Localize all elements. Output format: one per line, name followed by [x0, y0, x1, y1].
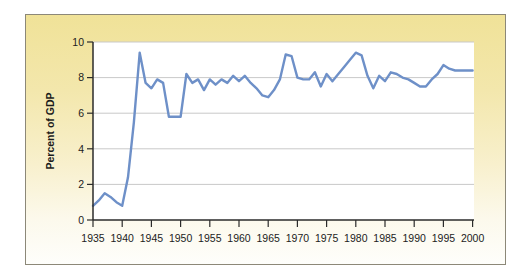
- x-tick-label-2000: 2000: [461, 232, 485, 244]
- y-tick-label-0: 0: [78, 214, 84, 226]
- x-tick-label-1980: 1980: [344, 232, 368, 244]
- y-tick-label-10: 10: [72, 36, 84, 48]
- x-tick-label-1985: 1985: [373, 232, 397, 244]
- line-chart: 0246810193519401945195019551960196519701…: [26, 15, 505, 264]
- x-tick-label-1945: 1945: [140, 232, 164, 244]
- y-tick-label-8: 8: [78, 71, 84, 83]
- x-tick-label-1965: 1965: [257, 232, 281, 244]
- chart-card: 0246810193519401945195019551960196519701…: [25, 14, 506, 265]
- y-tick-label-6: 6: [78, 107, 84, 119]
- y-tick-label-4: 4: [78, 143, 84, 155]
- x-tick-label-1935: 1935: [81, 232, 105, 244]
- x-tick-label-1995: 1995: [432, 232, 456, 244]
- x-tick-label-1950: 1950: [169, 232, 193, 244]
- x-tick-label-1960: 1960: [227, 232, 251, 244]
- x-tick-label-1940: 1940: [111, 232, 135, 244]
- y-tick-label-2: 2: [78, 178, 84, 190]
- x-tick-label-1975: 1975: [315, 232, 339, 244]
- x-tick-label-1990: 1990: [403, 232, 427, 244]
- x-tick-label-1970: 1970: [286, 232, 310, 244]
- x-tick-label-1955: 1955: [198, 232, 222, 244]
- y-axis-title: Percent of GDP: [44, 92, 56, 169]
